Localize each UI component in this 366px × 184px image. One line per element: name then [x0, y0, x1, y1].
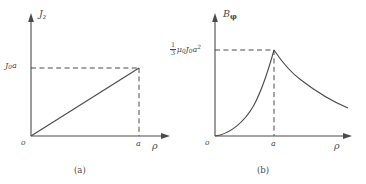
y-tick-label-a: J0a — [5, 62, 17, 71]
panel-a-plot — [0, 0, 183, 184]
panel-b: Bφ ρ o 13μ0J0a2 a (b) — [183, 0, 366, 184]
origin-label-b: o — [205, 139, 210, 147]
x-axis-arrowhead-b — [343, 133, 352, 139]
x-axis-label-a: ρ — [152, 141, 158, 151]
curve-inside-bphi — [215, 50, 274, 136]
origin-label-a: o — [21, 139, 26, 147]
panel-b-plot — [183, 0, 366, 184]
y-axis-arrowhead-a — [28, 13, 34, 22]
y-axis-label-a: Jz — [39, 9, 46, 21]
y-axis-arrowhead-b — [212, 13, 218, 22]
x-tick-label-a: a — [136, 140, 141, 148]
panel-a: Jz ρ o J0a a (a) — [0, 0, 183, 184]
y-axis-label-b: Bφ — [223, 9, 237, 20]
fraction-one-third: 13 — [170, 42, 176, 56]
y-tick-label-b: 13μ0J0a2 — [170, 42, 201, 56]
x-tick-label-b: a — [271, 140, 276, 148]
curve-outside-bphi — [274, 50, 348, 108]
caption-a: (a) — [74, 165, 86, 175]
x-axis-label-b: ρ — [334, 141, 340, 151]
curve-linear-jz — [31, 68, 139, 136]
figure-root: Jz ρ o J0a a (a) Bφ ρ o 13μ0J0a2 — [0, 0, 366, 184]
x-axis-arrowhead-a — [161, 133, 170, 139]
caption-b: (b) — [257, 165, 269, 175]
